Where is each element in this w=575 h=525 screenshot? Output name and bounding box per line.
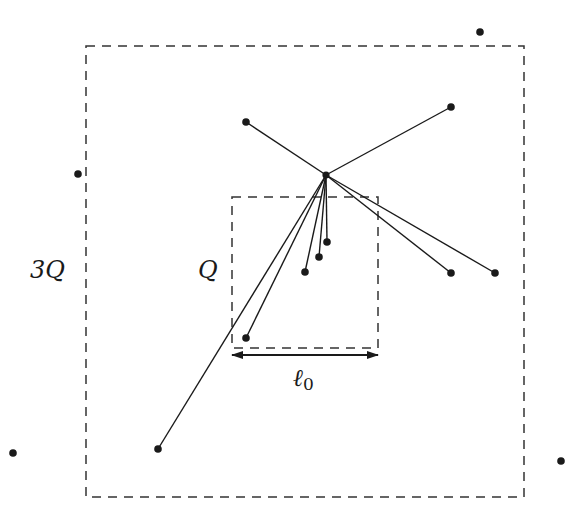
edge-0: [246, 122, 326, 175]
edge-3: [246, 175, 326, 338]
connected-point: [242, 334, 250, 342]
connected-point: [447, 269, 455, 277]
diagram-canvas: [0, 0, 575, 525]
isolated-point: [557, 457, 565, 465]
label-3q: 3Q: [30, 258, 65, 282]
isolated-point: [476, 28, 484, 36]
edge-8: [326, 175, 495, 273]
isolated-point: [74, 170, 82, 178]
connected-point: [301, 268, 309, 276]
isolated-point: [9, 449, 17, 457]
connected-point: [242, 118, 250, 126]
connected-point: [154, 445, 162, 453]
label-l0: ℓ0: [293, 366, 314, 393]
points-layer: [9, 28, 565, 465]
connected-point: [447, 103, 455, 111]
edge-1: [326, 107, 451, 175]
edge-2: [158, 175, 326, 449]
edge-7: [326, 175, 451, 273]
label-l0-subscript: 0: [303, 374, 314, 394]
connected-point: [315, 253, 323, 261]
connected-point: [491, 269, 499, 277]
connected-point: [323, 238, 331, 246]
label-l0-main: ℓ: [293, 364, 303, 392]
hub-point: [322, 171, 329, 178]
edge-6: [326, 175, 327, 242]
label-q: Q: [198, 258, 218, 282]
